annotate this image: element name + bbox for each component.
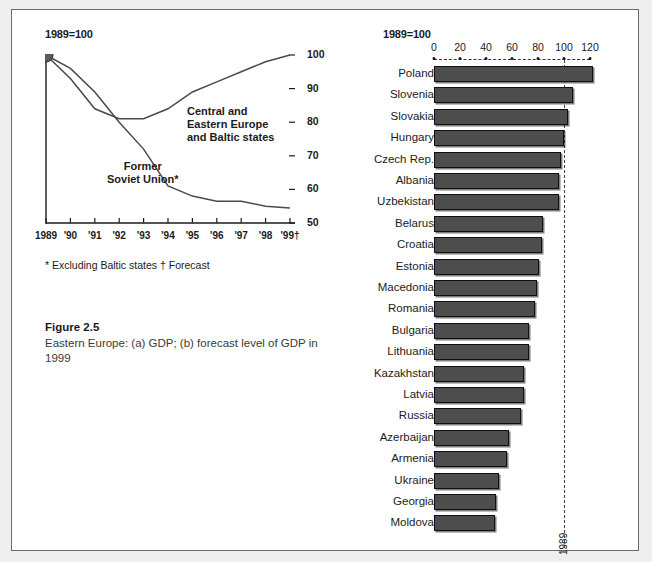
bar-rect <box>434 280 537 296</box>
bar-rect <box>434 216 543 232</box>
panel-b-bar-chart: 1989=100 020406080100120 1989 PolandSlov… <box>360 10 638 550</box>
panel-a-line-chart: 1989=100 5060708090100 1989'90'91'92'93'… <box>12 10 360 300</box>
bar-x-axis-tick-dot <box>433 57 436 60</box>
bar-rect <box>434 451 507 467</box>
bar-rect <box>434 259 539 275</box>
bar-category-label: Russia <box>399 409 434 421</box>
y-axis-tick-label: 90 <box>307 82 319 94</box>
panel-a-title: 1989=100 <box>45 28 93 40</box>
bar-x-axis-tick-label: 120 <box>581 41 599 53</box>
bar-chart-axis-dotted-line <box>360 57 640 61</box>
series-label-cee: Central and Eastern Europe and Baltic st… <box>187 105 274 144</box>
figure-caption: Figure 2.5 Eastern Europe: (a) GDP; (b) … <box>45 320 335 366</box>
bar-category-label: Uzbekistan <box>377 195 434 207</box>
bar-category-label: Kazakhstan <box>374 367 434 379</box>
bar-row: Estonia <box>360 258 640 278</box>
reference-line-1989-label: 1989 <box>558 533 569 555</box>
x-axis-tick-label: '91 <box>88 230 102 241</box>
bar-rect <box>434 323 529 339</box>
bar-row: Hungary <box>360 129 640 149</box>
bar-row: Macedonia <box>360 279 640 299</box>
bar-x-axis-tick-dot <box>511 57 514 60</box>
x-axis-tick-label: '99† <box>280 230 299 241</box>
bar-row: Russia <box>360 407 640 427</box>
y-axis-tick-label: 50 <box>307 216 319 228</box>
bar-category-label: Hungary <box>391 131 434 143</box>
bar-category-label: Armenia <box>391 452 434 464</box>
bar-x-axis-tick-label: 40 <box>480 41 492 53</box>
x-axis-tick-label: '92 <box>112 230 126 241</box>
panel-a-x-axis-labels: 1989'90'91'92'93'94'95'96'97'98'99† <box>34 228 324 246</box>
y-axis-tick-label: 60 <box>307 182 319 194</box>
y-axis-tick-label: 100 <box>307 48 325 60</box>
bar-row: Georgia <box>360 493 640 513</box>
bar-x-axis-tick-label: 100 <box>555 41 573 53</box>
bar-row: Ukraine <box>360 472 640 492</box>
bar-rect <box>434 109 568 125</box>
bar-x-axis-tick-label: 20 <box>454 41 466 53</box>
bar-x-axis-tick-dot <box>459 57 462 60</box>
bar-row: Albania <box>360 172 640 192</box>
bar-rect <box>434 366 524 382</box>
bar-x-axis-tick-dot <box>589 57 592 60</box>
bar-row: Lithuania <box>360 343 640 363</box>
bar-rect <box>434 301 535 317</box>
bar-row: Poland <box>360 65 640 85</box>
bar-category-label: Poland <box>398 67 434 79</box>
bar-row: Armenia <box>360 450 640 470</box>
bar-rect <box>434 152 561 168</box>
bar-row: Latvia <box>360 386 640 406</box>
bar-row: Bulgaria <box>360 322 640 342</box>
x-axis-ticks <box>46 218 290 223</box>
bar-x-axis-tick-label: 0 <box>431 41 437 53</box>
bar-row: Croatia <box>360 236 640 256</box>
x-axis-tick-label: '95 <box>186 230 200 241</box>
bar-x-axis-tick-dot <box>485 57 488 60</box>
bar-x-axis-tick-label: 80 <box>532 41 544 53</box>
bar-rect <box>434 173 559 189</box>
bar-x-axis-tick-dot <box>537 57 540 60</box>
bar-row: Slovenia <box>360 86 640 106</box>
bar-category-label: Albania <box>396 174 434 186</box>
bar-rect <box>434 408 521 424</box>
bar-category-label: Belarus <box>395 217 434 229</box>
bar-row: Czech Rep. <box>360 151 640 171</box>
panel-a-footnote: * Excluding Baltic states † Forecast <box>45 259 210 271</box>
x-axis-tick-label: '97 <box>234 230 248 241</box>
bar-row: Kazakhstan <box>360 365 640 385</box>
bar-category-label: Estonia <box>396 260 434 272</box>
bar-category-label: Azerbaijan <box>380 431 434 443</box>
figure-frame: 1989=100 5060708090100 1989'90'91'92'93'… <box>11 9 639 551</box>
bar-category-label: Ukraine <box>394 474 434 486</box>
bar-category-label: Croatia <box>397 238 434 250</box>
bar-category-label: Moldova <box>391 516 434 528</box>
bar-category-label: Lithuania <box>387 345 434 357</box>
bar-row: Romania <box>360 300 640 320</box>
bar-rect <box>434 87 573 103</box>
bar-category-label: Slovakia <box>391 110 434 122</box>
bar-rect <box>434 515 495 531</box>
panel-a-y-axis-labels: 5060708090100 <box>299 54 339 224</box>
bar-rect <box>434 66 593 82</box>
bar-rect <box>434 237 542 253</box>
bar-chart-plot-area: 020406080100120 1989 PolandSloveniaSlova… <box>360 10 640 552</box>
bar-rect <box>434 430 509 446</box>
bar-rect <box>434 130 564 146</box>
x-axis-tick-label: '94 <box>161 230 175 241</box>
bar-row: Azerbaijan <box>360 429 640 449</box>
bar-category-label: Czech Rep. <box>374 153 434 165</box>
bar-rect <box>434 494 496 510</box>
bar-rect <box>434 344 529 360</box>
bar-row: Belarus <box>360 215 640 235</box>
bar-rect <box>434 473 499 489</box>
bar-category-label: Bulgaria <box>392 324 434 336</box>
x-axis-tick-label: 1989 <box>35 230 57 241</box>
bar-category-label: Romania <box>388 302 434 314</box>
bar-category-label: Georgia <box>393 495 434 507</box>
x-axis-tick-label: '93 <box>137 230 151 241</box>
bar-row: Uzbekistan <box>360 193 640 213</box>
bar-rect <box>434 194 559 210</box>
series-label-fsu: Former Soviet Union* <box>107 160 179 186</box>
bar-category-label: Slovenia <box>390 88 434 100</box>
bar-row: Moldova <box>360 514 640 534</box>
